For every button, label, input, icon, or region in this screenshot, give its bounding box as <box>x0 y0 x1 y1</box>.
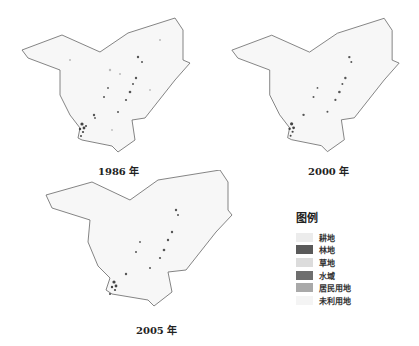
map-shape <box>232 18 399 151</box>
map-caption-2005: 2005 年 <box>136 322 177 337</box>
legend-item-forest: 林地 <box>296 244 351 257</box>
swatch-grassland <box>296 258 313 267</box>
swatch-cropland <box>296 233 313 242</box>
legend-label: 耕地 <box>319 232 335 243</box>
swatch-water <box>296 271 313 280</box>
land-use-map-2000 <box>210 0 419 160</box>
legend-item-cropland: 耕地 <box>296 231 351 244</box>
land-use-map-2005 <box>30 170 240 330</box>
swatch-residential <box>296 283 313 292</box>
map-shape <box>22 18 190 152</box>
legend-label: 水域 <box>319 270 335 281</box>
legend-title: 图例 <box>296 209 351 225</box>
swatch-unused <box>296 296 313 305</box>
map-caption-1986: 1986 年 <box>98 163 139 178</box>
legend-item-water: 水域 <box>296 269 351 282</box>
legend-item-grassland: 草地 <box>296 256 351 269</box>
legend-label: 居民用地 <box>319 282 351 293</box>
map-shape <box>46 170 232 306</box>
swatch-forest <box>296 245 313 254</box>
legend-label: 草地 <box>319 257 335 268</box>
legend-label: 未利用地 <box>319 295 351 306</box>
legend-item-residential: 居民用地 <box>296 281 351 294</box>
legend: 图例 耕地 林地 草地 水域 居民用地 未利用地 <box>296 209 351 307</box>
legend-item-unused: 未利用地 <box>296 294 351 307</box>
land-use-map-1986 <box>0 0 210 160</box>
legend-label: 林地 <box>319 244 335 255</box>
map-caption-2000: 2000 年 <box>308 163 349 178</box>
